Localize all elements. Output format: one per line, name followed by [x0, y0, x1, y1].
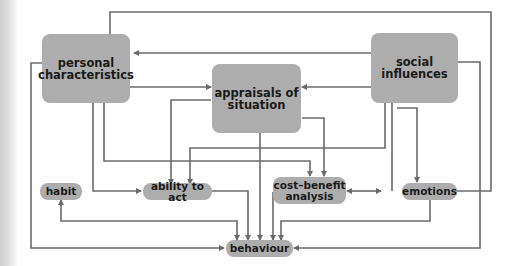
node-cost-benefit-analysis: cost–benefit analysis	[273, 177, 346, 204]
node-behaviour: behaviour	[226, 240, 293, 257]
node-personal-characteristics: personal characteristics	[42, 34, 130, 103]
node-label: appraisals of situation	[215, 87, 299, 111]
node-label: emotions	[402, 186, 457, 197]
node-label: social influences	[381, 56, 447, 80]
node-social-influences: social influences	[371, 33, 458, 103]
node-appraisals-of-situation: appraisals of situation	[212, 64, 301, 133]
node-label: cost–benefit analysis	[274, 180, 346, 202]
node-label: behaviour	[230, 243, 290, 254]
node-emotions: emotions	[402, 183, 457, 200]
node-habit: habit	[40, 183, 82, 200]
node-label: ability to act	[143, 181, 212, 203]
node-ability-to-act: ability to act	[143, 183, 212, 200]
node-label: personal characteristics	[38, 57, 134, 81]
node-label: habit	[46, 186, 77, 197]
